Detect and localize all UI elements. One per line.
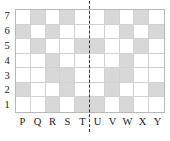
x-axis-tick: V (105, 114, 120, 130)
grid-cell-X3 (134, 68, 149, 83)
grid-cell-R3 (46, 68, 61, 83)
x-axis-tick: R (45, 114, 60, 130)
grid-cell-U7 (90, 10, 105, 25)
grid-cell-P6 (16, 25, 31, 40)
grid-cell-W3 (120, 68, 135, 83)
grid-cell-U5 (90, 39, 105, 54)
x-axis-tick: W (120, 114, 135, 130)
grid-cell-Y3 (149, 68, 164, 83)
grid-cell-Q5 (31, 39, 46, 54)
x-axis-tick: T (75, 114, 90, 130)
grid-cell-Y6 (149, 25, 164, 40)
grid-cell-P1 (16, 97, 31, 112)
grid-cell-U4 (90, 54, 105, 69)
symmetry-grid (15, 9, 165, 113)
grid-cell-P4 (16, 54, 31, 69)
grid-cell-Q2 (31, 83, 46, 98)
grid-cell-Q7 (31, 10, 46, 25)
grid-cell-W2 (120, 83, 135, 98)
grid-cell-X6 (134, 25, 149, 40)
grid-cell-P7 (16, 10, 31, 25)
grid-cell-T5 (75, 39, 90, 54)
grid-cell-Y4 (149, 54, 164, 69)
x-axis-tick: Q (30, 114, 45, 130)
grid-cell-S6 (60, 25, 75, 40)
grid-cell-V2 (105, 83, 120, 98)
grid-cell-W5 (120, 39, 135, 54)
grid-cell-U6 (90, 25, 105, 40)
grid-cell-W7 (120, 10, 135, 25)
x-axis-tick: U (90, 114, 105, 130)
grid-cell-W4 (120, 54, 135, 69)
y-axis-tick: 7 (0, 9, 14, 24)
grid-cell-T3 (75, 68, 90, 83)
x-axis-tick: S (60, 114, 75, 130)
grid-cell-Q4 (31, 54, 46, 69)
y-axis-tick: 2 (0, 83, 14, 98)
grid-cell-P2 (16, 83, 31, 98)
grid-cell-V7 (105, 10, 120, 25)
grid-cell-W6 (120, 25, 135, 40)
y-axis-tick: 5 (0, 39, 14, 54)
grid-cell-Q6 (31, 25, 46, 40)
grid-cell-T1 (75, 97, 90, 112)
grid-cell-X4 (134, 54, 149, 69)
grid-cell-X7 (134, 10, 149, 25)
grid-cell-T6 (75, 25, 90, 40)
grid-cell-V4 (105, 54, 120, 69)
x-axis-labels: P Q R S T U V W X Y (15, 114, 165, 130)
grid-cell-R7 (46, 10, 61, 25)
grid-cell-V3 (105, 68, 120, 83)
reflection-symmetry-figure: 7 6 5 4 3 2 1 P Q R S T U V W X Y (0, 0, 170, 141)
grid-cell-S1 (60, 97, 75, 112)
y-axis-tick: 1 (0, 98, 14, 113)
grid-cell-R5 (46, 39, 61, 54)
grid-cell-U3 (90, 68, 105, 83)
grid-cell-Y7 (149, 10, 164, 25)
grid-cell-S7 (60, 10, 75, 25)
grid-cell-Y1 (149, 97, 164, 112)
grid-cell-Y2 (149, 83, 164, 98)
grid-cell-S3 (60, 68, 75, 83)
grid-cell-V6 (105, 25, 120, 40)
y-axis-tick: 4 (0, 54, 14, 69)
grid-cell-T7 (75, 10, 90, 25)
mirror-line-dashed (89, 1, 90, 132)
grid-cell-R2 (46, 83, 61, 98)
y-axis-tick: 3 (0, 68, 14, 83)
grid-cell-S2 (60, 83, 75, 98)
x-axis-tick: Y (150, 114, 165, 130)
y-axis-labels: 7 6 5 4 3 2 1 (0, 9, 14, 113)
x-axis-tick: P (15, 114, 30, 130)
grid-cell-U1 (90, 97, 105, 112)
grid-cell-W1 (120, 97, 135, 112)
grid-cell-R4 (46, 54, 61, 69)
grid-cell-Q3 (31, 68, 46, 83)
y-axis-tick: 6 (0, 24, 14, 39)
grid-cell-V1 (105, 97, 120, 112)
grid-cell-X5 (134, 39, 149, 54)
grid-cell-S5 (60, 39, 75, 54)
grid-cell-S4 (60, 54, 75, 69)
grid-cell-T2 (75, 83, 90, 98)
grid-cell-Y5 (149, 39, 164, 54)
grid-cell-U2 (90, 83, 105, 98)
x-axis-tick: X (135, 114, 150, 130)
grid-cell-X1 (134, 97, 149, 112)
grid-cell-R6 (46, 25, 61, 40)
grid-cell-X2 (134, 83, 149, 98)
grid-cell-P3 (16, 68, 31, 83)
grid-cell-R1 (46, 97, 61, 112)
grid-cell-V5 (105, 39, 120, 54)
grid-cell-T4 (75, 54, 90, 69)
grid-cell-Q1 (31, 97, 46, 112)
grid-cell-P5 (16, 39, 31, 54)
